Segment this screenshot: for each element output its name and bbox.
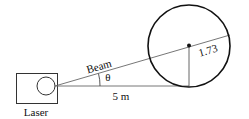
angle-arc [99, 74, 101, 86]
laser-aperture-circle [37, 77, 55, 95]
angle-label: θ [105, 71, 110, 83]
diagram-canvas: Laser Beam θ 5 m 1.73 [0, 0, 249, 119]
distance-label: 5 m [113, 90, 130, 102]
radius-label: 1.73 [197, 42, 219, 59]
center-dot [187, 44, 191, 48]
laser-label: Laser [24, 106, 49, 118]
beam-line [55, 35, 230, 86]
